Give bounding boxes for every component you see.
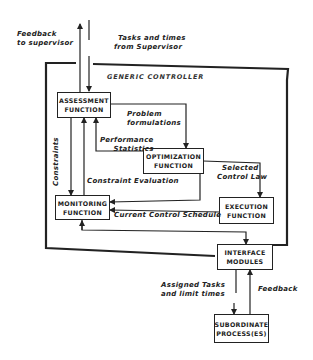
selected-control-law-line2: Control Law — [217, 173, 267, 182]
assigned-tasks-line2: and limit times — [161, 290, 225, 299]
performance-statistics-label: Performance Statistics — [100, 136, 154, 153]
feedback-to-supervisor-line1: Feedback — [17, 30, 73, 39]
monitoring-label-1: MONITORING — [58, 199, 108, 208]
subordinate-label-1: SUBORDINATE — [215, 320, 269, 329]
selected-control-law-line1: Selected — [217, 164, 267, 173]
interface-label-1: INTERFACE — [224, 248, 265, 257]
tasks-from-supervisor-label: Tasks and times from Supervisor — [114, 34, 186, 51]
assessment-function-node: ASSESSMENT FUNCTION — [57, 92, 111, 118]
performance-statistics-line2: Statistics — [100, 145, 154, 154]
feedback-label: Feedback — [258, 285, 298, 294]
problem-formulations-label: Problem formulations — [127, 110, 181, 127]
monitoring-function-node: MONITORING FUNCTION — [55, 195, 110, 220]
assessment-label-1: ASSESSMENT — [59, 96, 109, 105]
constraints-label: Constraints — [52, 137, 61, 186]
assessment-label-2: FUNCTION — [65, 105, 104, 114]
container-title: GENERIC CONTROLLER — [107, 73, 204, 81]
tasks-from-supervisor-line1: Tasks and times — [114, 34, 186, 43]
problem-formulations-line1: Problem — [127, 110, 181, 119]
interface-label-2: MODULES — [227, 257, 264, 266]
problem-formulations-line2: formulations — [127, 119, 181, 128]
subordinate-processes-node: SUBORDINATE PROCESS(ES) — [214, 314, 269, 343]
optimization-label-1: OPTIMIZATION — [146, 152, 201, 161]
interface-modules-node: INTERFACE MODULES — [217, 244, 273, 270]
selected-control-law-label: Selected Control Law — [217, 164, 267, 181]
subordinate-label-2: PROCESS(ES) — [216, 329, 266, 338]
execution-function-node: EXECUTION FUNCTION — [219, 197, 274, 224]
constraint-evaluation-label: Constraint Evaluation — [87, 177, 179, 186]
tasks-from-supervisor-line2: from Supervisor — [114, 43, 186, 52]
feedback-to-supervisor-label: Feedback to supervisor — [17, 30, 73, 47]
execution-label-2: FUNCTION — [227, 211, 266, 220]
execution-label-1: EXECUTION — [225, 202, 268, 211]
optimization-label-2: FUNCTION — [154, 161, 193, 170]
performance-statistics-line1: Performance — [100, 136, 154, 145]
monitoring-label-2: FUNCTION — [63, 208, 102, 217]
assigned-tasks-line1: Assigned Tasks — [161, 281, 225, 290]
assigned-tasks-label: Assigned Tasks and limit times — [161, 281, 225, 298]
feedback-to-supervisor-line2: to supervisor — [17, 39, 73, 48]
current-control-schedule-label: Current Control Schedule — [114, 211, 221, 220]
